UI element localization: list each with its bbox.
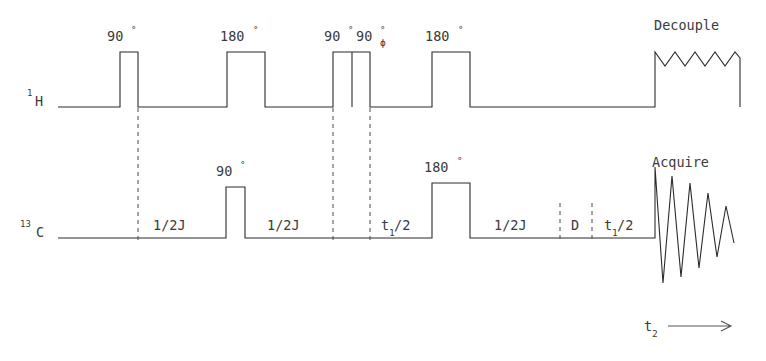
interval-label-6: t 1 /2	[604, 217, 633, 238]
proton-element-symbol: H	[35, 93, 43, 109]
channel-label-proton: 1 H	[27, 88, 43, 109]
proton-pulse-1-angle: 90	[107, 28, 123, 44]
carbon-pulse-1-degree: °	[240, 160, 245, 170]
carbon-pulse-labels: 90 ° 180 °	[216, 156, 462, 179]
channel-label-carbon: 13 C	[20, 219, 44, 240]
carbon-pulse-2-degree: °	[457, 156, 462, 166]
time-axis-t2: t 2	[644, 318, 731, 339]
proton-pulse-3-angle: 90	[324, 28, 340, 44]
proton-pulse-label-1: 90 °	[107, 25, 136, 44]
proton-pulse-2-degree: °	[253, 25, 258, 35]
proton-pulse-5-degree: °	[458, 25, 463, 35]
time-axis-sub: 2	[652, 328, 658, 339]
proton-mass-number: 1	[27, 88, 32, 98]
carbon-pulse-label-1: 90 °	[216, 160, 245, 179]
interval-label-4: 1/2J	[494, 217, 527, 233]
decouple-label: Decouple	[654, 17, 719, 33]
interval-labels: 1/2J 1/2J t 1 /2 1/2J D t 1 /2	[153, 217, 633, 238]
carbon-pulse-label-2: 180 °	[424, 156, 462, 175]
carbon-element-symbol: C	[36, 224, 44, 240]
proton-pulse-1-degree: °	[131, 25, 136, 35]
time-axis-arrow	[668, 321, 731, 331]
interval-label-1: 1/2J	[153, 217, 186, 233]
proton-pulse-4-phase: ϕ	[380, 37, 386, 48]
proton-pulse-4-degree: °	[380, 25, 385, 35]
proton-pulse-label-4: 90 ° ϕ	[356, 25, 386, 48]
interval-label-6-suffix: /2	[617, 217, 633, 233]
proton-pulse-label-3: 90 °	[324, 25, 353, 44]
acquire-label: Acquire	[652, 154, 709, 170]
time-axis-label: t	[644, 318, 652, 334]
interval-label-3-suffix: /2	[394, 217, 410, 233]
proton-pulse-labels: 90 ° 180 ° 90 ° 90 ° ϕ 180 °	[107, 25, 463, 48]
interval-label-3-base: t	[381, 217, 389, 233]
interval-label-5: D	[571, 217, 579, 233]
carbon-pulse-2-angle: 180	[424, 159, 448, 175]
proton-waveform	[58, 52, 740, 107]
proton-pulse-label-2: 180 °	[220, 25, 258, 44]
pulse-sequence-figure: 1 H 13 C 90 ° 180 ° 90 ° 90 °	[0, 0, 766, 361]
interval-label-6-base: t	[604, 217, 612, 233]
interval-label-2: 1/2J	[267, 217, 300, 233]
proton-pulse-2-angle: 180	[220, 28, 244, 44]
proton-pulse-3-degree: °	[348, 25, 353, 35]
interval-label-3: t 1 /2	[381, 217, 410, 238]
carbon-mass-number: 13	[20, 219, 31, 229]
proton-pulse-label-5: 180 °	[425, 25, 463, 44]
proton-pulse-4-angle: 90	[356, 28, 372, 44]
proton-pulse-5-angle: 180	[425, 28, 449, 44]
carbon-pulse-1-angle: 90	[216, 163, 232, 179]
